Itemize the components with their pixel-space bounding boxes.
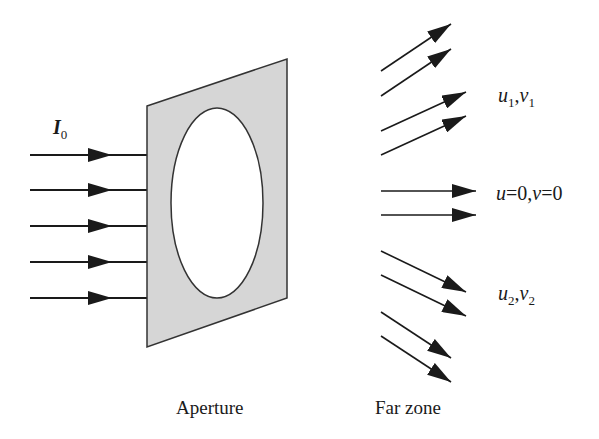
far-zone-ray <box>381 116 466 155</box>
arrowhead-icon <box>88 148 112 162</box>
aperture-caption: Aperture <box>176 397 244 419</box>
far-zone-ray <box>381 24 451 71</box>
arrowhead-icon <box>88 219 112 233</box>
far-zone-ray <box>381 312 451 358</box>
far-zone-ray <box>381 251 466 292</box>
arrowhead-icon <box>88 183 112 197</box>
arrowhead-icon <box>88 255 112 269</box>
aperture-hole <box>171 108 263 298</box>
incident-rays <box>30 148 147 305</box>
direction-label-u1-v1: u1,v1 <box>498 84 535 111</box>
far-zone-ray <box>381 336 451 382</box>
incident-intensity-label: I0 <box>53 116 67 143</box>
far-zone-caption: Far zone <box>375 397 441 419</box>
diffraction-diagram <box>0 0 599 439</box>
far-zone-ray <box>381 92 466 131</box>
direction-label-u2-v2: u2,v2 <box>498 282 535 309</box>
far-zone-ray <box>381 275 466 316</box>
direction-label-u0-v0: u=0,v=0 <box>496 182 562 205</box>
far-zone-ray <box>381 49 451 96</box>
far-zone-rays <box>381 24 476 382</box>
arrowhead-icon <box>88 291 112 305</box>
